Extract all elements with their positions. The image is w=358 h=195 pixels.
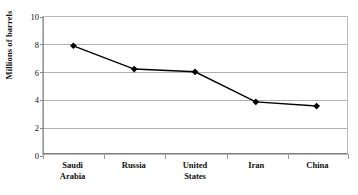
y-tick-label: 4 [35,95,39,105]
x-category-label-line: States [183,171,208,182]
y-tick-label: 8 [35,40,39,50]
x-category-label-line: United [183,160,208,171]
x-category-label-line: Russia [122,160,146,171]
x-tick-mark [227,154,228,159]
x-tick-mark [165,154,166,159]
y-tick-label: 10 [31,12,40,22]
x-category-label: China [306,160,328,171]
x-category-label-line: Arabia [60,171,86,182]
plot-area: 0246810 [42,16,348,155]
y-axis-title: Millions of barrels [4,0,18,100]
series-line [73,46,316,106]
data-point-marker [252,99,259,106]
x-tick-mark [288,154,289,159]
x-category-label-line: Iran [248,160,264,171]
y-tick-label: 2 [35,123,39,133]
line-chart: Millions of barrels 0246810 SaudiArabiaR… [0,0,358,195]
x-category-label: Russia [122,160,146,171]
x-category-label-line: China [306,160,328,171]
x-tick-mark [43,154,44,159]
y-tick-label: 0 [35,151,39,161]
data-point-marker [192,68,199,75]
x-category-label: SaudiArabia [60,160,86,182]
x-axis-labels: SaudiArabiaRussiaUnitedStatesIranChina [42,160,348,192]
x-category-label: Iran [248,160,264,171]
x-tick-mark [104,154,105,159]
data-series [43,17,347,154]
data-point-marker [313,103,320,110]
x-category-label-line: Saudi [60,160,86,171]
x-category-label: UnitedStates [183,160,208,182]
y-tick-label: 6 [35,68,39,78]
data-point-marker [70,42,77,49]
data-point-marker [131,66,138,73]
gridline [43,156,347,157]
x-tick-mark [348,154,349,159]
